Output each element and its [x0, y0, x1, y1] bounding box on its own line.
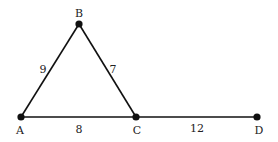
length-labels: 9 7 8 12 [40, 63, 205, 136]
segment-ab [21, 24, 79, 117]
point-d [253, 113, 260, 120]
length-ac: 8 [76, 123, 83, 136]
point-a [17, 113, 24, 120]
segments [21, 24, 257, 117]
point-b [75, 20, 82, 27]
geometry-diagram: A B C D 9 7 8 12 [0, 0, 278, 142]
length-bc: 7 [110, 63, 117, 76]
point-c [132, 113, 139, 120]
label-d: D [255, 124, 264, 137]
label-a: A [15, 124, 25, 137]
label-c: C [133, 124, 141, 137]
segment-bc [79, 24, 136, 117]
length-cd: 12 [190, 122, 204, 135]
points [17, 20, 260, 120]
label-b: B [75, 7, 83, 20]
length-ab: 9 [40, 63, 47, 76]
